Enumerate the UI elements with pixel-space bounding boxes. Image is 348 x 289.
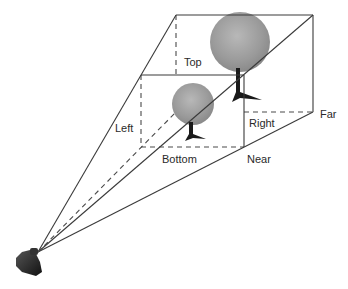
frustum-rays <box>38 15 313 252</box>
far-tree-icon <box>210 12 270 102</box>
bottom-label: Bottom <box>162 153 197 165</box>
right-label: Right <box>249 117 275 129</box>
view-frustum-diagram: Top Left Right Bottom Near Far <box>0 0 348 289</box>
camera-icon <box>16 248 42 276</box>
far-label: Far <box>320 108 337 120</box>
left-label: Left <box>115 122 133 134</box>
near-tree-icon <box>172 83 214 141</box>
top-label: Top <box>184 56 202 68</box>
near-label: Near <box>247 153 271 165</box>
